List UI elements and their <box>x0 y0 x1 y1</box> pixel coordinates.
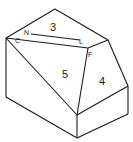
face-label-4: 4 <box>99 75 105 87</box>
vertex-label-n: N <box>24 29 29 36</box>
vertex-label-l: L <box>79 38 83 45</box>
face-label-5: 5 <box>62 68 68 80</box>
vertex-label-f: F <box>88 51 92 58</box>
face-label-3: 3 <box>50 21 56 33</box>
vertex-label-c: C <box>15 37 20 44</box>
isometric-block-diagram: 3 5 4 C N L F <box>0 0 133 142</box>
